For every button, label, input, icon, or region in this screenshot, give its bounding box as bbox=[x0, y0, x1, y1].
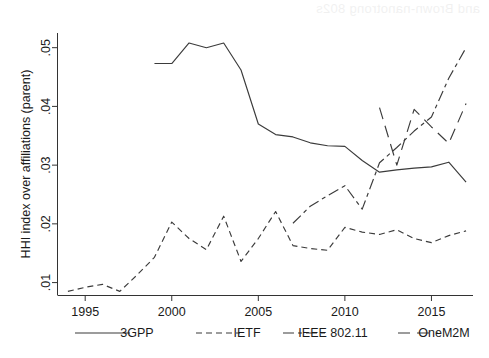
series-line-onem2m bbox=[380, 103, 467, 165]
x-axis: 19952000200520102015 bbox=[58, 296, 474, 320]
y-tick-label: .02 bbox=[39, 215, 53, 232]
y-tick-label: .03 bbox=[39, 156, 53, 173]
x-tick-label: 2005 bbox=[244, 305, 272, 319]
series-layer bbox=[68, 43, 466, 291]
series-line-ietf bbox=[68, 212, 466, 292]
y-axis-title: HHI index over affiliations (parent) bbox=[19, 70, 33, 259]
y-tick-label: .01 bbox=[39, 274, 53, 291]
legend-label-onem2m: OneM2M bbox=[418, 326, 469, 340]
chart-figure: and Brown-nanotrong 802s .01.02.03.04.05… bbox=[0, 0, 489, 358]
hhi-line-chart: .01.02.03.04.05 HHI index over affiliati… bbox=[0, 0, 489, 358]
y-tick-group: .01.02.03.04.05 bbox=[39, 39, 58, 291]
y-axis: .01.02.03.04.05 HHI index over affiliati… bbox=[19, 33, 58, 295]
legend-label-3gpp: 3GPP bbox=[120, 326, 153, 340]
chart-legend: 3GPPIETFIEEE 802.11OneM2M bbox=[75, 326, 470, 340]
plot-area bbox=[68, 43, 466, 291]
x-tick-label: 2015 bbox=[418, 305, 446, 319]
x-tick-label: 2010 bbox=[331, 305, 359, 319]
x-tick-label: 2000 bbox=[158, 305, 186, 319]
x-tick-group: 19952000200520102015 bbox=[71, 296, 445, 320]
y-tick-label: .05 bbox=[39, 39, 53, 56]
series-line-3gpp bbox=[154, 43, 466, 182]
x-tick-label: 1995 bbox=[71, 305, 99, 319]
legend-label-ietf: IETF bbox=[233, 326, 260, 340]
legend-label-ieee-802-11: IEEE 802.11 bbox=[298, 326, 367, 340]
y-tick-label: .04 bbox=[39, 98, 53, 115]
